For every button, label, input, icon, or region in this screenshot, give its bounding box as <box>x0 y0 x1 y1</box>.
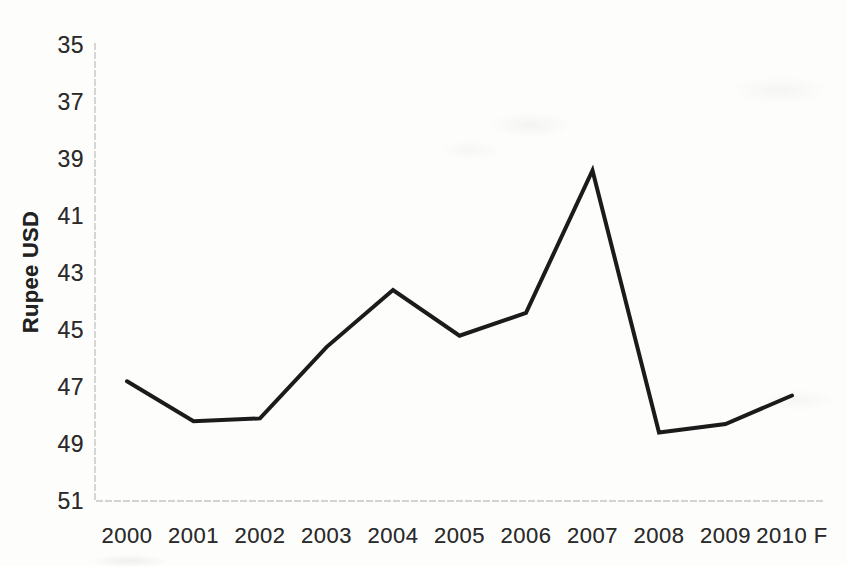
x-tick-label: 2001 <box>168 524 219 548</box>
x-tick-label: 2007 <box>567 524 618 548</box>
axes-lines <box>95 43 823 501</box>
y-tick-label: 45 <box>0 319 84 342</box>
x-tick-label: 2004 <box>368 524 419 548</box>
rupee-usd-line-chart: Rupee USD 353739414345474951200020012002… <box>0 0 847 566</box>
x-tick-label: 2003 <box>301 524 352 548</box>
y-tick-label: 47 <box>0 376 84 399</box>
x-tick-label: 2006 <box>501 524 552 548</box>
y-tick-label: 39 <box>0 148 84 171</box>
y-tick-label: 51 <box>0 490 84 513</box>
plot-area <box>0 0 847 566</box>
x-tick-label: 2010 F <box>756 524 828 548</box>
y-tick-label: 43 <box>0 262 84 285</box>
y-tick-label: 37 <box>0 91 84 114</box>
x-tick-label: 2009 <box>700 524 751 548</box>
y-tick-label: 41 <box>0 205 84 228</box>
x-tick-label: 2002 <box>235 524 286 548</box>
x-tick-label: 2000 <box>102 524 153 548</box>
x-tick-label: 2008 <box>634 524 685 548</box>
exchange-rate-line <box>127 170 792 432</box>
y-tick-label: 49 <box>0 433 84 456</box>
y-tick-label: 35 <box>0 34 84 57</box>
x-tick-label: 2005 <box>434 524 485 548</box>
